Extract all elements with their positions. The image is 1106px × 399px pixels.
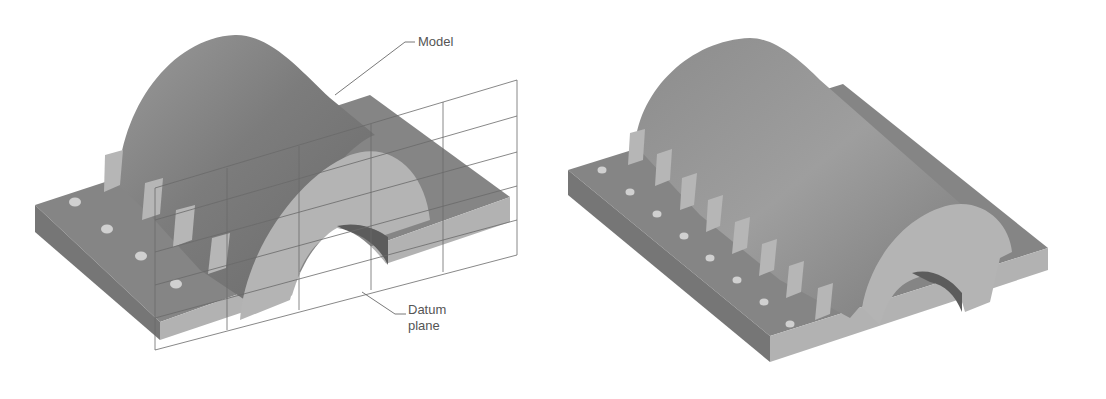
- model-leader: [335, 42, 415, 95]
- hole: [135, 252, 147, 261]
- hole: [653, 211, 662, 218]
- left-model: [35, 35, 510, 340]
- datum-leader: [362, 292, 406, 314]
- datum-plane-label-line2: plane: [408, 318, 440, 333]
- hole: [598, 167, 607, 174]
- hole: [170, 280, 182, 289]
- hole: [626, 189, 635, 196]
- hole: [101, 225, 113, 234]
- hole: [733, 277, 742, 284]
- datum-plane-label-line1: Datum: [408, 302, 446, 317]
- hole: [69, 198, 81, 207]
- hole: [680, 233, 689, 240]
- hole: [706, 255, 715, 262]
- right-model: [568, 38, 1048, 362]
- rib: [142, 178, 163, 220]
- rib: [628, 129, 645, 165]
- model-label: Model: [418, 34, 453, 49]
- hole: [760, 299, 769, 306]
- figure-canvas: [0, 0, 1106, 399]
- hole: [786, 321, 795, 328]
